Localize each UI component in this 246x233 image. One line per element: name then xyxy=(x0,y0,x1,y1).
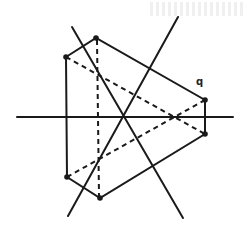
vertex-point-e xyxy=(97,195,103,201)
vertex-point-c xyxy=(202,97,208,103)
point-label-q: q xyxy=(196,76,203,87)
vertex-point-f xyxy=(64,174,70,180)
vertex-point-b xyxy=(93,35,99,41)
vertex-point-a xyxy=(63,54,69,60)
vertex-point-d xyxy=(202,131,208,137)
geometry-diagram: q xyxy=(0,0,246,233)
